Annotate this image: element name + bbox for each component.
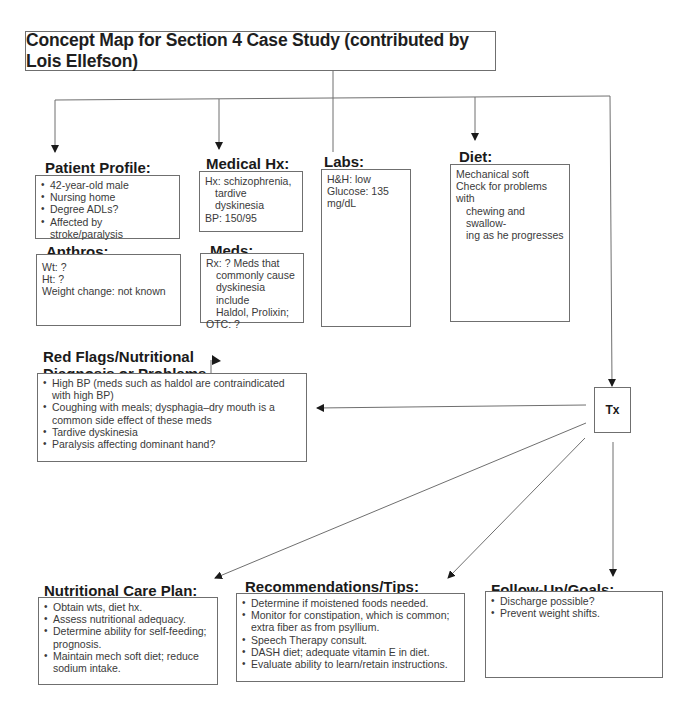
follow-up-list: Discharge possible? Prevent weight shift… — [491, 595, 657, 619]
list-item: Discharge possible? — [491, 595, 657, 607]
labs-heading: Labs: — [324, 153, 364, 170]
diet-line: Check for problems with — [456, 180, 564, 204]
list-item: Determine if moistened foods needed. — [242, 597, 459, 609]
diet-line: Mechanical soft — [456, 168, 564, 180]
list-item: Monitor for constipation, which is commo… — [242, 609, 459, 633]
list-item: Evaluate ability to learn/retain instruc… — [242, 658, 459, 670]
meds-box: Rx: ? Meds that commonly cause dyskinesi… — [200, 253, 304, 323]
labs-glucose: Glucose: 135 mg/dL — [327, 185, 405, 209]
nutritional-care-plan-box: Obtain wts, diet hx. Assess nutritional … — [38, 597, 218, 685]
title-box: Concept Map for Section 4 Case Study (co… — [25, 31, 496, 71]
list-item: Tardive dyskinesia — [43, 426, 301, 438]
list-item: DASH diet; adequate vitamin E in diet. — [242, 646, 459, 658]
list-item: Nursing home — [41, 191, 174, 203]
meds-line: commonly cause — [206, 269, 298, 281]
list-item: 42-year-old male — [41, 179, 174, 191]
diet-line: ing as he progresses — [456, 229, 564, 241]
patient-profile-heading: Patient Profile: — [45, 159, 151, 176]
medical-hx-bp: BP: 150/95 — [205, 212, 297, 224]
red-flags-box: High BP (meds such as haldol are contrai… — [37, 373, 307, 462]
list-item: Obtain wts, diet hx. — [44, 601, 212, 613]
labs-hh: H&H: low — [327, 173, 405, 185]
diet-line: chewing and swallow- — [456, 205, 564, 229]
list-item: Assess nutritional adequacy. — [44, 613, 212, 625]
patient-profile-box: 42-year-old male Nursing home Degree ADL… — [35, 175, 180, 239]
recommendations-box: Determine if moistened foods needed. Mon… — [236, 593, 465, 682]
labs-box: H&H: low Glucose: 135 mg/dL — [321, 169, 411, 327]
follow-up-box: Discharge possible? Prevent weight shift… — [485, 591, 663, 678]
list-item: High BP (meds such as haldol are contrai… — [43, 377, 301, 401]
list-item: Coughing with meals; dysphagia–dry mouth… — [43, 401, 301, 425]
diet-heading: Diet: — [459, 148, 492, 165]
red-flags-heading-line: Red Flags/Nutritional — [43, 348, 206, 365]
meds-otc: OTC: ? — [206, 318, 298, 330]
list-item: Prevent weight shifts. — [491, 607, 657, 619]
list-item: Paralysis affecting dominant hand? — [43, 438, 301, 450]
diet-box: Mechanical soft Check for problems with … — [450, 164, 570, 322]
recommendations-list: Determine if moistened foods needed. Mon… — [242, 597, 459, 670]
anthros-box: Wt: ? Ht: ? Weight change: not known — [36, 254, 181, 326]
list-item: Determine ability for self-feeding; prog… — [44, 625, 212, 649]
list-item: Speech Therapy consult. — [242, 634, 459, 646]
nutritional-care-plan-list: Obtain wts, diet hx. Assess nutritional … — [44, 601, 212, 674]
meds-line: Haldol, Prolixin; — [206, 306, 298, 318]
medical-hx-heading: Medical Hx: — [206, 155, 289, 172]
list-item: Maintain mech soft diet; reduce sodium i… — [44, 650, 212, 674]
tx-box: Tx — [594, 387, 631, 433]
meds-line: Rx: ? Meds that — [206, 257, 298, 269]
medical-hx-box: Hx: schizophrenia, tardive dyskinesia BP… — [199, 171, 303, 232]
list-item: Degree ADLs? — [41, 203, 174, 215]
anthros-weight: Wt: ? — [42, 261, 175, 273]
tx-label: Tx — [605, 403, 619, 417]
red-flags-list: High BP (meds such as haldol are contrai… — [43, 377, 301, 450]
anthros-height: Ht: ? — [42, 273, 175, 285]
patient-profile-list: 42-year-old male Nursing home Degree ADL… — [41, 179, 174, 240]
page-title: Concept Map for Section 4 Case Study (co… — [26, 30, 495, 72]
meds-line: dyskinesia include — [206, 281, 298, 305]
medical-hx-line: tardive dyskinesia — [205, 187, 297, 211]
medical-hx-line: Hx: schizophrenia, — [205, 175, 297, 187]
anthros-weight-change: Weight change: not known — [42, 285, 175, 297]
list-item: Affected by stroke/paralysis — [41, 216, 174, 240]
